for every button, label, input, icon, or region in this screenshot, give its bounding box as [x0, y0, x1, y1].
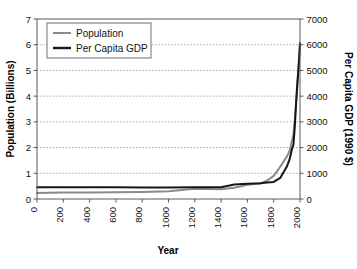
- chart-container: 01234567 01000200030004000500060007000 0…: [0, 0, 357, 269]
- left-axis-ticks: 01234567: [26, 14, 37, 205]
- x-tick-label: 1000: [160, 207, 171, 228]
- right-tick-label: 6000: [307, 39, 328, 50]
- left-tick-label: 0: [26, 194, 31, 205]
- left-tick-label: 1: [26, 168, 31, 179]
- x-tick-label: 0: [28, 207, 39, 212]
- x-tick-label: 1600: [238, 207, 249, 228]
- right-tick-label: 1000: [307, 168, 328, 179]
- chart-legend: Population Per Capita GDP: [47, 23, 151, 58]
- legend-label-population: Population: [76, 28, 123, 39]
- left-tick-label: 6: [26, 39, 31, 50]
- x-tick-label: 1800: [265, 207, 276, 228]
- x-tick-label: 600: [107, 207, 118, 223]
- x-tick-label: 400: [81, 207, 92, 223]
- right-tick-label: 5000: [307, 65, 328, 76]
- x-tick-label: 1400: [212, 207, 223, 228]
- x-axis-title: Year: [157, 245, 178, 256]
- left-tick-label: 5: [26, 65, 31, 76]
- population-gdp-line-chart: 01234567 01000200030004000500060007000 0…: [0, 0, 357, 269]
- x-tick-label: 200: [54, 207, 65, 223]
- right-tick-label: 0: [307, 194, 312, 205]
- right-axis-ticks: 01000200030004000500060007000: [300, 14, 328, 205]
- y-right-axis-title: Per Capita GDP (1990 $): [343, 52, 354, 166]
- x-tick-label: 1200: [186, 207, 197, 228]
- right-tick-label: 7000: [307, 14, 328, 25]
- right-tick-label: 2000: [307, 142, 328, 153]
- y-left-axis-title: Population (Billions): [5, 60, 16, 157]
- left-tick-label: 4: [26, 91, 31, 102]
- right-tick-label: 4000: [307, 91, 328, 102]
- bottom-axis-ticks: 0200400600800100012001400160018002000: [28, 199, 302, 228]
- left-tick-label: 2: [26, 142, 31, 153]
- left-tick-label: 7: [26, 14, 31, 25]
- legend-label-per-capita-gdp: Per Capita GDP: [76, 43, 148, 54]
- left-tick-label: 3: [26, 116, 31, 127]
- right-tick-label: 3000: [307, 116, 328, 127]
- x-tick-label: 800: [133, 207, 144, 223]
- x-tick-label: 2000: [291, 207, 302, 228]
